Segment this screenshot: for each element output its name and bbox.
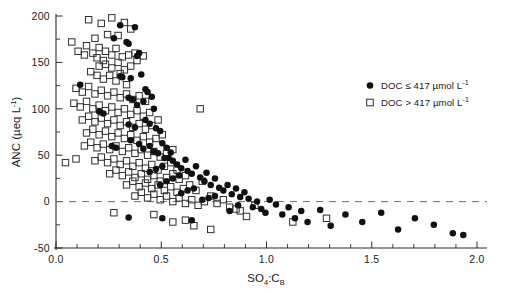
data-point-open-square: [81, 52, 87, 58]
data-point-open-square: [153, 135, 159, 141]
data-point-filled-circle: [266, 196, 273, 203]
data-point-open-square: [117, 122, 123, 128]
data-point-open-square: [83, 42, 89, 48]
data-point-open-square: [111, 210, 117, 216]
data-point-filled-circle: [138, 71, 145, 78]
data-point-open-square: [197, 106, 203, 112]
data-point-open-square: [88, 139, 94, 145]
data-point-open-square: [195, 202, 201, 208]
y-axis-tick-labels: -50050100150200: [32, 10, 50, 254]
data-point-filled-circle: [157, 182, 164, 189]
data-point-open-square: [83, 130, 89, 136]
data-point-open-square: [96, 132, 102, 138]
data-point-open-square: [62, 159, 68, 165]
data-point-filled-circle: [203, 170, 210, 177]
data-point-open-square: [109, 65, 115, 71]
data-point-open-square: [128, 132, 134, 138]
data-point-filled-circle: [113, 145, 120, 152]
data-point-open-square: [123, 182, 129, 188]
data-point-filled-circle: [327, 222, 334, 229]
data-point-filled-circle: [304, 219, 311, 226]
data-point-open-square: [132, 150, 138, 156]
series-doc-greater-than-417-points: [62, 15, 329, 233]
data-point-open-square: [109, 133, 115, 139]
data-point-filled-circle: [125, 41, 132, 48]
series-doc-leq-417-points: [77, 22, 467, 238]
data-point-open-square: [123, 81, 129, 87]
data-point-filled-circle: [167, 149, 174, 156]
data-point-filled-circle: [146, 169, 153, 176]
data-point-open-square: [243, 213, 249, 219]
data-point-filled-circle: [378, 209, 385, 216]
legend-label-doc-greater-417: DOC > 417 µmol L-1: [381, 95, 469, 108]
data-point-open-square: [92, 158, 98, 164]
x-tick-label: 0.0: [48, 253, 64, 265]
legend-label-doc-leq-417: DOC ≤ 417 µmol L-1: [381, 78, 469, 91]
data-point-open-square: [142, 180, 148, 186]
data-point-open-square: [168, 184, 174, 190]
data-point-filled-circle: [159, 215, 166, 222]
data-point-open-square: [104, 93, 110, 99]
data-point-open-square: [94, 145, 100, 151]
data-point-open-square: [121, 67, 127, 73]
legend-filled-circle-marker: [367, 82, 374, 89]
scatter-chart-figure: -50050100150200 0.00.51.01.52.0 ANC (µeq…: [0, 0, 519, 293]
data-point-filled-circle: [262, 209, 269, 216]
data-point-open-square: [191, 223, 197, 229]
data-point-open-square: [106, 171, 112, 177]
data-point-filled-circle: [125, 214, 132, 221]
data-point-filled-circle: [212, 175, 219, 182]
data-point-open-square: [104, 159, 110, 165]
data-point-filled-circle: [342, 211, 349, 218]
data-point-filled-circle: [159, 163, 166, 170]
data-point-filled-circle: [189, 171, 196, 178]
data-point-filled-circle: [207, 182, 214, 189]
data-point-open-square: [90, 106, 96, 112]
chart-legend: DOC ≤ 417 µmol L-1 DOC > 417 µmol L-1: [367, 78, 469, 108]
data-point-open-square: [115, 130, 121, 136]
y-tick-label: 0: [44, 195, 50, 207]
data-point-filled-circle: [191, 185, 198, 192]
anc-vs-so4-cb-scatter-plot: -50050100150200 0.00.51.01.52.0 ANC (µeq…: [0, 0, 519, 293]
data-point-filled-circle: [161, 155, 168, 162]
data-point-filled-circle: [224, 182, 231, 189]
data-point-open-square: [109, 15, 115, 21]
data-point-filled-circle: [285, 204, 292, 211]
data-point-open-square: [94, 72, 100, 78]
data-point-open-square: [208, 226, 214, 232]
data-point-open-square: [96, 44, 102, 50]
data-point-filled-circle: [189, 217, 196, 224]
data-point-filled-circle: [273, 201, 280, 208]
data-point-open-square: [144, 152, 150, 158]
data-point-open-square: [144, 176, 150, 182]
data-point-filled-circle: [229, 191, 236, 198]
data-point-filled-circle: [132, 124, 139, 131]
data-point-open-square: [132, 174, 138, 180]
y-axis-minor-ticks: [56, 39, 60, 225]
data-point-open-square: [81, 143, 87, 149]
data-point-open-square: [102, 61, 108, 67]
data-point-open-square: [128, 63, 134, 69]
data-point-open-square: [119, 172, 125, 178]
data-point-open-square: [123, 158, 129, 164]
data-point-open-square: [130, 178, 136, 184]
data-point-open-square: [71, 100, 77, 106]
data-point-open-square: [90, 126, 96, 132]
data-point-open-square: [83, 98, 89, 104]
data-point-open-square: [109, 52, 115, 58]
data-point-filled-circle: [395, 226, 402, 233]
data-point-filled-circle: [359, 219, 366, 226]
data-point-filled-circle: [130, 96, 137, 103]
data-point-filled-circle: [157, 128, 164, 135]
data-point-filled-circle: [163, 178, 170, 185]
data-point-filled-circle: [226, 208, 233, 215]
data-point-filled-circle: [193, 163, 200, 170]
data-point-filled-circle: [182, 157, 189, 164]
data-point-filled-circle: [460, 232, 467, 239]
data-point-open-square: [79, 117, 85, 123]
data-point-open-square: [144, 195, 150, 201]
data-point-open-square: [155, 117, 161, 123]
data-point-open-square: [94, 55, 100, 61]
data-point-open-square: [102, 48, 108, 54]
data-point-open-square: [69, 39, 75, 45]
